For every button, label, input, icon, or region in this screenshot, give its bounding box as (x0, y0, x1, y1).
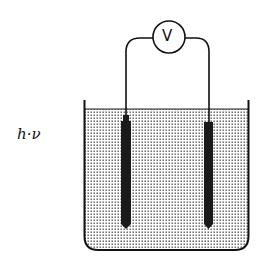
left-electrode (121, 121, 131, 224)
right-electrode (204, 122, 213, 224)
electrolyte-solution (85, 109, 248, 249)
left-electrode-neck (123, 115, 129, 122)
voltmeter-label: V (162, 27, 172, 45)
wire-left (126, 38, 153, 118)
light-energy-label: h·ν (17, 125, 41, 143)
